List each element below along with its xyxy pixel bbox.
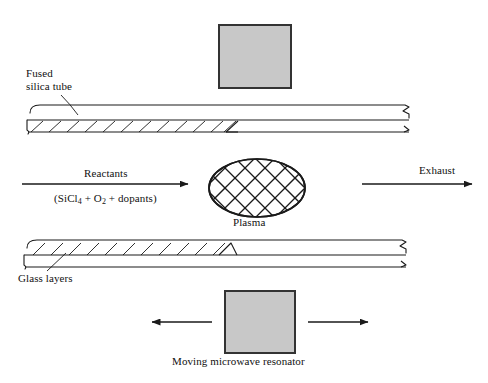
tube-top-right-break [404, 126, 409, 132]
leader-line-glass-layers [47, 253, 66, 271]
tube-top-layer-taper [226, 121, 238, 132]
label-plasma: Plasma [233, 216, 265, 229]
tube-bottom-layer-taper [219, 243, 237, 255]
microwave-resonator-top [219, 25, 291, 88]
label-moving-microwave-resonator: Moving microwave resonator [172, 355, 305, 368]
label-reactants: Reactants [84, 167, 128, 180]
label-fused-silica-tube-line2: silica tube [26, 80, 72, 93]
pcvd-process-diagram: Fused silica tube Glass layers Reactants… [0, 0, 488, 383]
formula-suffix: + dopants) [106, 192, 157, 204]
label-glass-layers: Glass layers [18, 272, 73, 285]
formula-prefix: (SiCl [54, 192, 78, 204]
tube-top-outer-wall [30, 105, 409, 118]
microwave-resonator-bottom [225, 291, 295, 353]
label-fused-silica-tube: Fused silica tube [26, 67, 72, 93]
tube-bottom-hatching [33, 243, 225, 255]
formula-mid: + O [82, 192, 102, 204]
resonator-bottom-body [225, 291, 295, 353]
fused-silica-tube-bottom [24, 240, 406, 269]
tube-top-hatching [31, 121, 236, 132]
resonator-top-body [219, 25, 291, 88]
label-exhaust: Exhaust [419, 164, 455, 177]
label-reactants-formula: (SiCl4 + O2 + dopants) [54, 192, 157, 208]
fused-silica-tube-top [27, 105, 409, 134]
tube-bottom-right-break [401, 261, 406, 267]
label-fused-silica-tube-line1: Fused [26, 67, 72, 80]
